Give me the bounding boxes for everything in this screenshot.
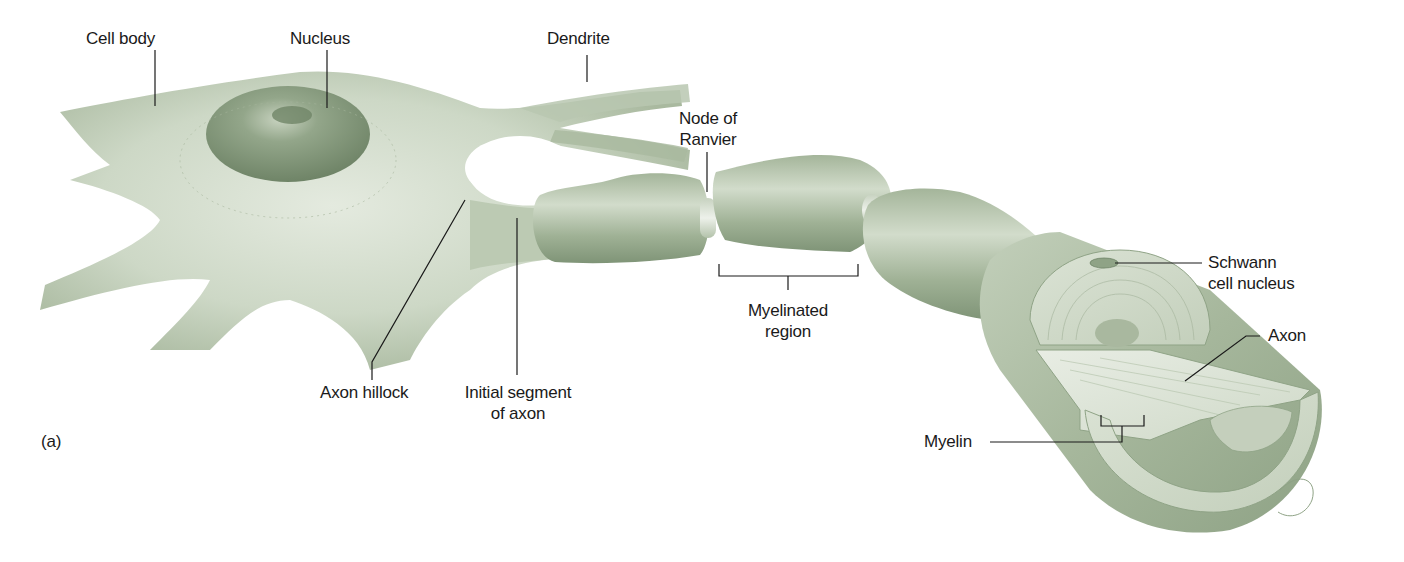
label-axon: Axon [1268,325,1306,346]
panel-label: (a) [41,431,61,452]
label-schwann-cell-nucleus: Schwann cell nucleus [1208,252,1294,294]
label-myelin: Myelin [924,431,972,452]
label-axon-hillock: Axon hillock [320,382,408,403]
bracket-myelinated-region [719,264,858,276]
label-nucleus: Nucleus [290,28,350,49]
label-initial-segment: Initial segment of axon [448,382,588,424]
label-cell-body: Cell body [86,28,155,49]
axon-cross-section [1095,319,1139,347]
neuron-illustration [0,0,1404,562]
label-node-of-ranvier: Node of Ranvier [667,108,749,150]
neuron-diagram: Cell body Nucleus Dendrite Node of Ranvi… [0,0,1404,562]
label-myelinated-region: Myelinated region [733,300,843,342]
schwann-nucleus-shape [1090,258,1118,268]
label-dendrite: Dendrite [547,28,610,49]
